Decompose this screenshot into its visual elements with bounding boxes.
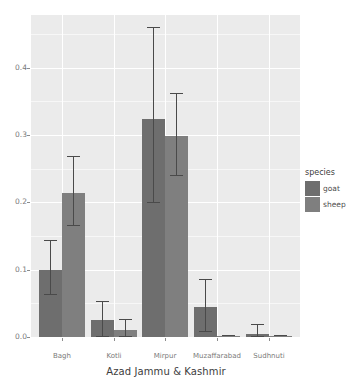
- legend-item-sheep[interactable]: sheep: [305, 196, 355, 212]
- errorbar-line-Mirpur-goat: [153, 28, 154, 203]
- x-tick-mark-Sudhnuti: [269, 338, 270, 341]
- errorbar-cap-upper-Kotli-sheep: [119, 319, 132, 320]
- errorbar-cap-lower-Kotli-goat: [96, 336, 109, 337]
- legend-swatch-sheep: [305, 197, 320, 212]
- legend-label-goat: goat: [323, 184, 340, 193]
- errorbar-line-Kotli-goat: [102, 302, 103, 337]
- errorbar-line-Bagh-sheep: [73, 157, 74, 226]
- x-tick-mark-Bagh: [62, 338, 63, 341]
- x-tick-mark-Muzaffarabad: [217, 338, 218, 341]
- errorbar-cap-lower-Mirpur-goat: [147, 202, 160, 203]
- x-tick-label-Mirpur: Mirpur: [135, 352, 195, 361]
- x-tick-label-Sudhnuti: Sudhnuti: [239, 352, 299, 361]
- errorbar-cap-upper-Bagh-goat: [44, 240, 57, 241]
- errorbar-cap-upper-Sudhnuti-goat: [251, 324, 264, 325]
- y-tick-label-0.3: 0.3: [7, 131, 27, 139]
- legend: species goat sheep: [305, 168, 355, 212]
- x-tick-label-Muzaffarabad: Muzaffarabad: [187, 352, 247, 361]
- errorbar-line-Kotli-sheep: [125, 320, 126, 337]
- plot-panel: [31, 15, 300, 337]
- y-tick-label-0.1: 0.1: [7, 266, 27, 274]
- legend-title: species: [305, 168, 355, 177]
- bar-chart-figure: Prevalence 0.4 0.3 0.2 0.1 0.0: [0, 0, 356, 386]
- errorbar-cap-upper-Mirpur-sheep: [170, 93, 183, 94]
- errorbar-cap-Sudhnuti-sheep: [274, 335, 287, 336]
- errorbar-cap-Muzaffarabad-sheep: [222, 335, 235, 336]
- errorbar-cap-lower-Muzaffarabad-goat: [199, 331, 212, 332]
- y-tick-mark-0.0: [27, 337, 30, 338]
- y-tick-label-0.0: 0.0: [7, 333, 27, 341]
- y-tick-mark-0.2: [27, 202, 30, 203]
- y-tick-label-0.4: 0.4: [7, 64, 27, 72]
- errorbar-line-Bagh-goat: [50, 241, 51, 295]
- errorbar-cap-upper-Mirpur-goat: [147, 27, 160, 28]
- x-tick-mark-Mirpur: [165, 338, 166, 341]
- errorbar-cap-upper-Muzaffarabad-goat: [199, 279, 212, 280]
- errorbar-cap-lower-Mirpur-sheep: [170, 175, 183, 176]
- bar-Sudhnuti-sheep: [269, 336, 292, 337]
- y-tick-mark-0.3: [27, 135, 30, 136]
- errorbar-cap-upper-Bagh-sheep: [67, 156, 80, 157]
- errorbar-cap-lower-Bagh-sheep: [67, 225, 80, 226]
- gridline-x-Kotli: [114, 15, 115, 337]
- legend-item-goat[interactable]: goat: [305, 180, 355, 196]
- y-tick-label-0.2: 0.2: [7, 198, 27, 206]
- errorbar-cap-upper-Kotli-goat: [96, 301, 109, 302]
- errorbar-cap-lower-Kotli-sheep: [119, 336, 132, 337]
- legend-swatch-goat: [305, 181, 320, 196]
- x-tick-mark-Kotli: [114, 338, 115, 341]
- errorbar-line-Muzaffarabad-goat: [205, 280, 206, 332]
- legend-label-sheep: sheep: [323, 200, 346, 209]
- errorbar-line-Mirpur-sheep: [176, 94, 177, 176]
- errorbar-cap-lower-Bagh-goat: [44, 294, 57, 295]
- gridline-x-Muzaffarabad: [217, 15, 218, 337]
- x-axis-title: Azad Jammu & Kashmir: [30, 366, 302, 377]
- y-tick-mark-0.4: [27, 68, 30, 69]
- gridline-x-Sudhnuti: [269, 15, 270, 337]
- errorbar-cap-lower-Sudhnuti-goat: [251, 336, 264, 337]
- x-tick-label-Bagh: Bagh: [32, 352, 92, 361]
- bar-Muzaffarabad-sheep: [217, 336, 240, 337]
- y-tick-mark-0.1: [27, 270, 30, 271]
